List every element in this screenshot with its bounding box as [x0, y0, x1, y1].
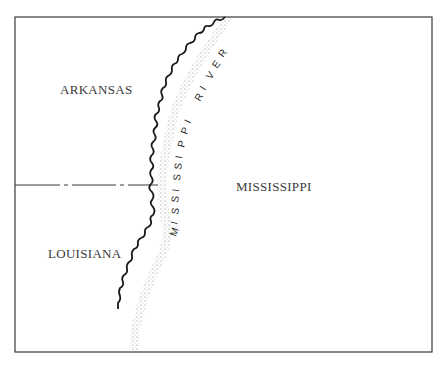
- state-label-arkansas: ARKANSAS: [60, 82, 132, 98]
- river-letter: I: [197, 84, 208, 92]
- map-canvas: M I S S I S S I P P I R I V E R: [0, 0, 442, 367]
- river-letter: S: [172, 162, 184, 170]
- river-west-bank: [118, 17, 225, 309]
- river-letter: V: [204, 69, 217, 81]
- river-letter: E: [210, 58, 223, 70]
- river-letter: R: [192, 91, 205, 103]
- state-label-louisiana: LOUISIANA: [48, 246, 121, 262]
- river-letter: S: [169, 207, 181, 216]
- river-letter: R: [216, 47, 229, 59]
- river-letter: S: [171, 173, 183, 181]
- river-letter: I: [170, 188, 181, 192]
- river-letter: P: [179, 125, 192, 135]
- state-label-mississippi: MISSISSIPPI: [236, 179, 312, 195]
- river-letter: I: [182, 118, 193, 125]
- river-letter: S: [169, 195, 181, 203]
- river-letter: I: [173, 155, 184, 160]
- river-label: M I S S I S S I P P I R I V E R: [168, 47, 229, 238]
- river-letter: P: [175, 139, 187, 149]
